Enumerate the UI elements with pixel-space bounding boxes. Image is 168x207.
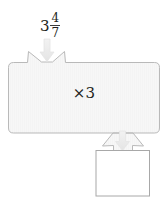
down-arrow-icon bbox=[40, 39, 54, 62]
input-denominator: 7 bbox=[50, 27, 60, 39]
input-fraction: 4 7 bbox=[50, 12, 60, 38]
function-machine-diagram: 3 4 7 ×3 bbox=[0, 0, 168, 207]
output-value[interactable] bbox=[96, 150, 150, 196]
operation-label: ×3 bbox=[0, 86, 168, 101]
input-whole-number: 3 bbox=[40, 19, 51, 34]
input-numerator: 4 bbox=[50, 12, 60, 24]
input-value-label: 3 4 7 bbox=[30, 11, 70, 41]
input-arrow bbox=[40, 39, 54, 62]
